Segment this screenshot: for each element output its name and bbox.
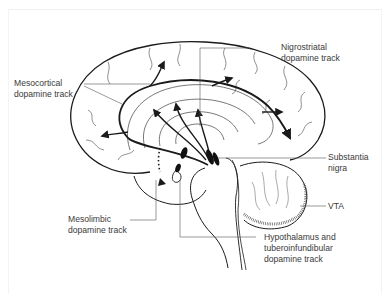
label-substantia-nigra-line2: nigra <box>328 163 369 174</box>
label-nigrostriatal: Nigrostriatal dopamine track <box>281 42 340 64</box>
label-substantia-nigra: Substantia nigra <box>328 152 369 174</box>
label-vta: VTA <box>328 201 344 212</box>
label-hypothalamus-line2: tuberoinfundibular <box>264 243 336 254</box>
temporal-lobe <box>134 176 206 204</box>
label-mesocortical-line2: dopamine track <box>14 89 73 100</box>
label-vta-line1: VTA <box>328 201 344 212</box>
label-mesolimbic-line1: Mesolimbic <box>68 214 127 225</box>
brainstem <box>191 168 228 268</box>
label-nigrostriatal-line2: dopamine track <box>281 53 340 64</box>
brainstem-front <box>226 158 242 270</box>
leader-lines <box>84 48 326 237</box>
mesolimbic-dotted-path <box>159 148 161 172</box>
label-mesolimbic: Mesolimbic dopamine track <box>68 214 127 236</box>
mesolimbic-arrowhead <box>158 178 166 186</box>
label-mesolimbic-line2: dopamine track <box>68 225 127 236</box>
label-mesocortical-line1: Mesocortical <box>14 78 73 89</box>
label-hypothalamus: Hypothalamus and tuberoinfundibular dopa… <box>264 232 336 265</box>
label-hypothalamus-line3: dopamine track <box>264 254 336 265</box>
cerebellum <box>240 162 307 229</box>
label-hypothalamus-line1: Hypothalamus and <box>264 232 336 243</box>
label-substantia-nigra-line1: Substantia <box>328 152 369 163</box>
label-mesocortical: Mesocortical dopamine track <box>14 78 73 100</box>
label-nigrostriatal-line1: Nigrostriatal <box>281 42 340 53</box>
